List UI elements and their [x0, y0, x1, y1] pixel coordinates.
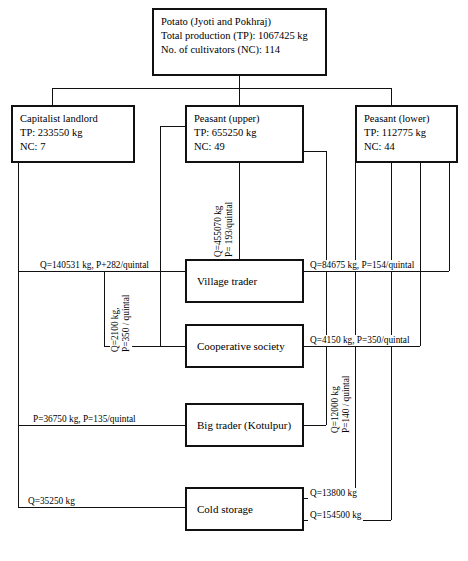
cooperative-society-node: Cooperative society [185, 324, 304, 368]
edge-label-upper-to-bigtrader: Q=12000 kg P=140 / quintal [330, 367, 352, 433]
potato-title-line-2: Total production (TP): 1067425 kg [161, 29, 318, 43]
edge-label-upper-to-coldstorage: Q=13800 kg [308, 488, 359, 499]
connector-landlord-coldstorage [18, 507, 185, 508]
edge-label-lower-to-coldstorage: Q=154500 kg [308, 510, 363, 521]
upper-line-2: TP: 655250 kg [194, 126, 295, 140]
cold-storage-node: Cold storage [185, 487, 304, 531]
connector-upper-village [239, 163, 240, 259]
cooperative-society-label: Cooperative society [187, 339, 285, 353]
edge-label-upper-to-village: Q=455070 kg P= 193/quintal [213, 177, 235, 257]
landlord-line-3: NC: 7 [20, 140, 126, 154]
edge-label-upper-to-village-p: P= 193/quintal [224, 177, 235, 257]
edge-label-landlord-to-village: Q=140531 kg, P+282/quintal [38, 260, 151, 271]
village-trader-label: Village trader [187, 274, 257, 288]
edge-label-upper-to-bigtrader-p: P=140 / quintal [341, 367, 352, 433]
edge-label-landlord-to-coop-p: P=350 / quintal [121, 290, 132, 352]
connector-lower-coop-rail [420, 163, 421, 346]
cold-storage-label: Cold storage [187, 502, 253, 516]
edge-label-lower-to-coop: Q=4150 kg, P=350/quintal [308, 335, 412, 346]
connector-upper-bigtrader [304, 425, 326, 426]
edge-label-landlord-to-bigtrader: P=36750 kg, P=135/quintal [31, 414, 138, 425]
connector-landlord-coop-drop [104, 271, 105, 346]
big-trader-node: Big trader (Kotulpur) [185, 403, 304, 447]
edge-label-lower-to-village: Q=84675 kg, P=154/quintal [308, 260, 416, 271]
edge-label-landlord-to-coop-q: Q=2100 kg, [110, 290, 121, 352]
connector-to-upper [239, 88, 240, 105]
connector-landlord-bigtrader [18, 425, 185, 426]
connector-landlord-rail [18, 163, 19, 507]
edge-label-landlord-to-coop: Q=2100 kg, P=350 / quintal [110, 290, 132, 352]
lower-line-2: TP: 112775 kg [364, 126, 449, 140]
village-trader-node: Village trader [185, 259, 304, 303]
landlord-line-2: TP: 233550 kg [20, 126, 126, 140]
peasant-lower-node: Peasant (lower) TP: 112775 kg NC: 44 [355, 105, 458, 163]
capitalist-landlord-node: Capitalist landlord TP: 233550 kg NC: 7 [11, 105, 135, 163]
connector-upper-coldstorage-rail [355, 151, 356, 498]
potato-title-line-1: Potato (Jyoti and Pokhraj) [161, 15, 318, 29]
connector-producer-bus [52, 88, 392, 89]
lower-line-3: NC: 44 [364, 140, 449, 154]
connector-lower-rail [449, 163, 450, 271]
connector-upper-rail [326, 151, 327, 425]
lower-line-1: Peasant (lower) [364, 112, 449, 126]
flow-diagram-canvas: Potato (Jyoti and Pokhraj) Total product… [0, 0, 468, 561]
big-trader-label: Big trader (Kotulpur) [187, 418, 291, 432]
connector-upper-rail-top [304, 151, 326, 152]
edge-label-upper-to-village-q: Q=455070 kg [213, 177, 224, 257]
peasant-upper-node: Peasant (upper) TP: 655250 kg NC: 49 [185, 105, 304, 163]
connector-title-stem [239, 76, 240, 88]
connector-upper-left-rail [160, 126, 161, 346]
upper-line-1: Peasant (upper) [194, 112, 295, 126]
potato-production-node: Potato (Jyoti and Pokhraj) Total product… [152, 8, 327, 76]
potato-title-line-3: No. of cultivators (NC): 114 [161, 43, 318, 57]
connector-to-lower [391, 88, 392, 105]
edge-label-landlord-to-coldstorage: Q=35250 kg [26, 496, 77, 507]
connector-lower-coop [304, 346, 420, 347]
connector-to-landlord [52, 88, 53, 105]
edge-label-upper-to-bigtrader-q: Q=12000 kg [330, 367, 341, 433]
upper-line-3: NC: 49 [194, 140, 295, 154]
connector-upper-left-rail-top [160, 126, 185, 127]
landlord-line-1: Capitalist landlord [20, 112, 126, 126]
